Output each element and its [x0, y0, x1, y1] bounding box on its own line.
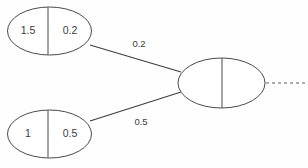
bottom-left-node-shape[interactable] [8, 110, 92, 158]
edge-top-label: 0.2 [132, 38, 145, 49]
edge-bottom-label: 0.5 [134, 116, 147, 127]
right-node[interactable] [178, 58, 265, 108]
top-left-node[interactable]: 1.5 0.2 [8, 7, 92, 55]
bottom-left-node-right-cell: 0.5 [63, 127, 78, 139]
top-left-node-left-cell: 1.5 [21, 24, 36, 36]
edge-top-line [90, 45, 181, 72]
edge-top-left-to-right: 0.2 [90, 38, 181, 72]
bottom-left-node[interactable]: 1 0.5 [8, 110, 92, 158]
edge-bottom-left-to-right: 0.5 [90, 92, 181, 127]
top-left-node-right-cell: 0.2 [63, 24, 78, 36]
diagram-canvas: 0.2 0.5 1.5 0.2 1 0.5 [0, 0, 308, 168]
bottom-left-node-left-cell: 1 [25, 127, 31, 139]
